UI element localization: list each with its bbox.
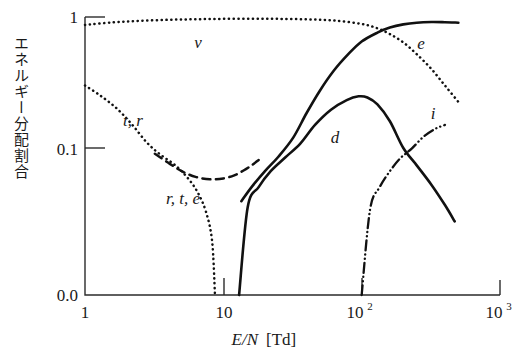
energy-partition-chart: 1 0.1 0.0 1 10 10 2 10 3 E/N [Td] [0,0,522,355]
curve-v [85,19,458,102]
x-ticklabel-1000-exponent: 3 [506,300,512,312]
curve-label-i: i [431,104,436,123]
y-ticklabel-1: 1 [70,8,79,27]
x-ticklabel-100-group: 10 2 [347,300,373,322]
x-ticks [224,278,362,295]
y-ticks [85,17,105,148]
y-ticklabel-0.0: 0.0 [57,286,78,305]
curve-label-t-r: t, r [123,111,143,130]
curve-d [239,96,455,295]
x-axis-title-symbol: E/N [231,330,260,349]
x-axis-title-unit: [Td] [266,330,296,349]
x-ticklabel-1000-base: 10 [486,303,503,322]
y-ticklabel-0.1: 0.1 [57,140,78,159]
curves [85,19,458,295]
x-ticklabel-10: 10 [216,303,233,322]
curve-i [362,125,445,295]
curve-label-v: v [194,33,202,52]
curve-e [241,22,458,201]
plot-frame [85,17,500,295]
curve-r-t-e [155,154,259,180]
axis-lines [85,17,500,295]
curve-label-d: d [331,128,340,147]
x-ticklabel-100-base: 10 [347,303,364,322]
x-ticklabel-1000-group: 10 3 [486,300,513,322]
x-axis-title: E/N [Td] [231,330,297,349]
x-ticklabel-1: 1 [81,303,90,322]
x-ticklabel-100-exponent: 2 [367,300,373,312]
curve-label-e: e [417,34,425,53]
curve-label-r-t-e: r, t, e [166,189,200,208]
